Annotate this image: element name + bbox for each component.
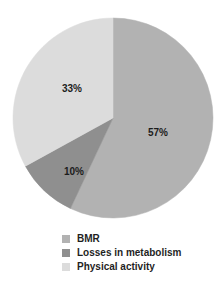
legend-swatch-physical-activity bbox=[62, 263, 70, 271]
chart-legend: BMR Losses in metabolism Physical activi… bbox=[62, 232, 217, 274]
pie-chart-figure: 57% 10% 33% BMR Losses in metabolism Phy… bbox=[0, 0, 223, 284]
legend-item-bmr[interactable]: BMR bbox=[62, 232, 217, 245]
legend-label-bmr: BMR bbox=[77, 232, 100, 245]
legend-item-losses-in-metabolism[interactable]: Losses in metabolism bbox=[62, 246, 217, 259]
pie-slice-label-losses-in-metabolism: 10% bbox=[64, 166, 84, 177]
legend-label-losses-in-metabolism: Losses in metabolism bbox=[77, 246, 181, 259]
legend-label-physical-activity: Physical activity bbox=[77, 260, 155, 273]
pie-slice-label-physical-activity: 33% bbox=[62, 83, 82, 94]
legend-item-physical-activity[interactable]: Physical activity bbox=[62, 260, 217, 273]
legend-swatch-bmr bbox=[62, 235, 70, 243]
pie-slice-label-bmr: 57% bbox=[148, 127, 168, 138]
legend-swatch-losses-in-metabolism bbox=[62, 249, 70, 257]
pie-chart-plot-area: 57% 10% 33% bbox=[0, 0, 223, 228]
pie-chart-svg: 57% 10% 33% bbox=[0, 0, 223, 228]
